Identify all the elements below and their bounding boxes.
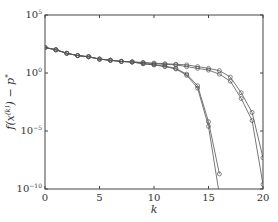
y-axis-label: f(x(k)) − p* [4,74,17,131]
convergence-chart: 0510152010510010−510−10 k f(x(k)) − p* [0,0,278,222]
x-tick-label: 20 [257,192,270,203]
series-line [45,47,219,173]
x-tick-label: 15 [202,192,215,203]
y-tick-label: 10−5 [20,124,42,136]
y-tick-label: 105 [25,8,42,20]
x-axis-label: k [151,203,158,216]
axis-ticks: 0510152010510010−510−10 [17,8,270,203]
x-tick-label: 10 [148,192,161,203]
series-line [45,47,219,194]
plot-area-border [45,15,263,189]
y-tick-label: 10−10 [17,182,43,194]
y-tick-label: 100 [25,66,42,78]
x-tick-label: 0 [42,192,48,203]
series-line [45,47,263,184]
series-layer [43,45,265,196]
data-point-marker [217,193,221,197]
plot-frame [45,15,263,189]
x-tick-label: 5 [96,192,102,203]
